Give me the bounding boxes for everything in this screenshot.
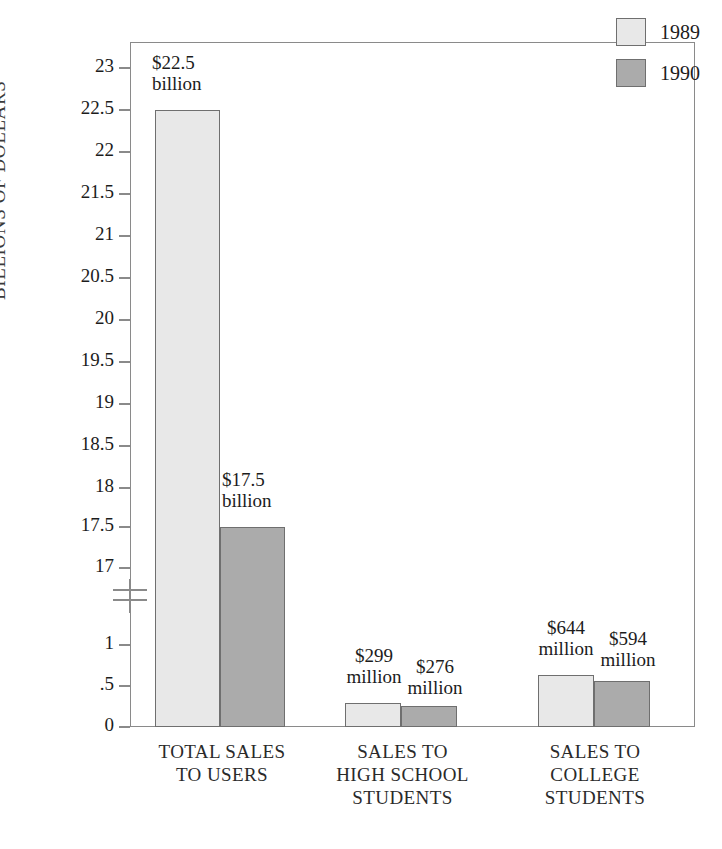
bar-total-sales-1989 <box>155 110 220 727</box>
tick-mark <box>119 726 130 728</box>
legend-item-1989: 1989 <box>616 18 700 46</box>
tick-label: 18 <box>95 475 114 497</box>
tick-mark <box>119 567 130 569</box>
value-amount: $17.5 <box>222 469 272 490</box>
legend-item-1990: 1990 <box>616 59 700 87</box>
value-unit: million <box>585 649 671 670</box>
bar-college-1990 <box>594 681 650 727</box>
tick-label: 18.5 <box>81 433 114 455</box>
value-amount: $276 <box>392 656 478 677</box>
tick-label: .5 <box>100 673 114 695</box>
tick-mark <box>119 403 130 405</box>
tick-label: 22.5 <box>81 97 114 119</box>
label-college-1990: $594million <box>585 628 671 671</box>
tick-mark <box>119 193 130 195</box>
tick-label: 1 <box>105 632 115 654</box>
value-unit: billion <box>152 73 202 94</box>
tick-mark <box>119 487 130 489</box>
tick-label: 21 <box>95 223 114 245</box>
category-line: HIGH SCHOOL <box>300 763 505 786</box>
legend-swatch-1989 <box>616 18 646 46</box>
tick-label: 23 <box>95 55 114 77</box>
tick-mark <box>119 685 130 687</box>
tick-label: 20.5 <box>81 265 114 287</box>
tick-mark <box>119 526 130 528</box>
label-total-1990: $17.5billion <box>222 469 272 512</box>
tick-mark <box>119 644 130 646</box>
category-line: STUDENTS <box>495 786 695 809</box>
category-line: TO USERS <box>122 763 322 786</box>
label-total-1989: $22.5billion <box>152 52 202 95</box>
category-line: COLLEGE <box>495 763 695 786</box>
value-unit: billion <box>222 490 272 511</box>
tick-label: 0 <box>105 714 115 736</box>
label-high-school-1990: $276million <box>392 656 478 699</box>
bar-high-school-1990 <box>401 706 457 727</box>
bar-total-sales-1990 <box>220 527 285 727</box>
tick-mark <box>119 67 130 69</box>
tick-label: 20 <box>95 307 114 329</box>
legend-label-1990: 1990 <box>660 62 700 85</box>
value-amount: $594 <box>585 628 671 649</box>
category-line: SALES TO <box>300 740 505 763</box>
category-high-school: SALES TOHIGH SCHOOLSTUDENTS <box>300 740 505 810</box>
tick-label: 19 <box>95 391 114 413</box>
tick-mark <box>119 445 130 447</box>
tick-label: 17 <box>95 555 114 577</box>
tick-mark <box>119 151 130 153</box>
category-line: TOTAL SALES <box>122 740 322 763</box>
tick-mark <box>119 235 130 237</box>
category-line: STUDENTS <box>300 786 505 809</box>
tick-mark <box>119 319 130 321</box>
tick-label: 22 <box>95 139 114 161</box>
tick-label: 19.5 <box>81 349 114 371</box>
value-unit: million <box>392 677 478 698</box>
tick-mark <box>119 361 130 363</box>
category-total-sales: TOTAL SALESTO USERS <box>122 740 322 786</box>
category-college: SALES TOCOLLEGESTUDENTS <box>495 740 695 810</box>
legend: 1989 1990 <box>616 18 700 100</box>
tick-label: 21.5 <box>81 181 114 203</box>
axis-break-icon <box>113 583 149 609</box>
tick-label: 17.5 <box>81 514 114 536</box>
value-amount: $22.5 <box>152 52 202 73</box>
legend-swatch-1990 <box>616 59 646 87</box>
legend-label-1989: 1989 <box>660 21 700 44</box>
bar-high-school-1989 <box>345 703 401 727</box>
tick-mark <box>119 109 130 111</box>
chart-canvas: BILLIONS OF DOLLARS 2322.52221.52120.520… <box>0 0 722 849</box>
y-axis-title: BILLIONS OF DOLLARS <box>0 0 10 300</box>
bar-college-1989 <box>538 675 594 727</box>
category-line: SALES TO <box>495 740 695 763</box>
tick-mark <box>119 277 130 279</box>
